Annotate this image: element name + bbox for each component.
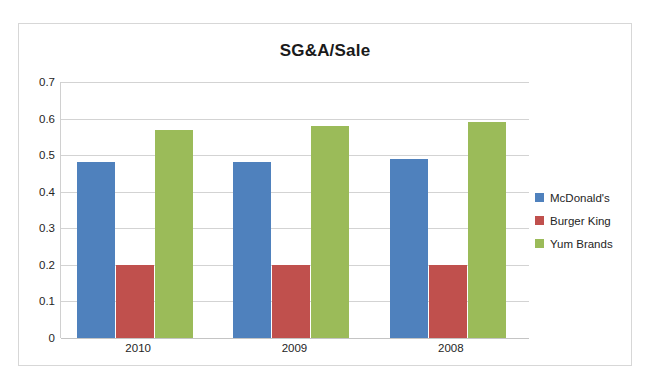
legend-label: Yum Brands bbox=[550, 238, 613, 250]
x-axis: 201020092008 bbox=[60, 342, 529, 362]
y-axis-tick-label: 0 bbox=[49, 332, 55, 344]
bar-group bbox=[217, 82, 373, 338]
x-axis-tick-label: 2008 bbox=[373, 342, 529, 354]
bar[interactable] bbox=[468, 122, 506, 338]
legend-item[interactable]: Yum Brands bbox=[535, 232, 629, 255]
chart-container: SG&A/Sale 0.70.60.50.40.30.20.10 2010200… bbox=[18, 23, 632, 366]
bar-group bbox=[374, 82, 530, 338]
legend-swatch-icon bbox=[535, 216, 544, 225]
bar[interactable] bbox=[233, 162, 271, 338]
y-axis-tick-label: 0.3 bbox=[39, 222, 55, 234]
bars-layer bbox=[61, 82, 529, 338]
gridline bbox=[61, 338, 529, 339]
legend-item[interactable]: McDonald's bbox=[535, 186, 629, 209]
y-axis-tick-label: 0.1 bbox=[39, 295, 55, 307]
bar[interactable] bbox=[311, 126, 349, 338]
legend-label: Burger King bbox=[550, 215, 611, 227]
x-axis-tick-label: 2009 bbox=[216, 342, 372, 354]
bar[interactable] bbox=[116, 265, 154, 338]
y-axis-tick-label: 0.5 bbox=[39, 149, 55, 161]
bar-group bbox=[61, 82, 217, 338]
y-axis-tick-label: 0.7 bbox=[39, 76, 55, 88]
legend-swatch-icon bbox=[535, 193, 544, 202]
bar[interactable] bbox=[390, 159, 428, 338]
y-axis-tick-label: 0.4 bbox=[39, 186, 55, 198]
bar[interactable] bbox=[272, 265, 310, 338]
bar[interactable] bbox=[155, 130, 193, 338]
legend-label: McDonald's bbox=[550, 192, 610, 204]
y-axis-tick-label: 0.6 bbox=[39, 113, 55, 125]
y-axis-tick-label: 0.2 bbox=[39, 259, 55, 271]
legend-swatch-icon bbox=[535, 239, 544, 248]
x-axis-tick-label: 2010 bbox=[60, 342, 216, 354]
y-axis: 0.70.60.50.40.30.20.10 bbox=[19, 82, 55, 338]
bar[interactable] bbox=[77, 162, 115, 338]
legend-item[interactable]: Burger King bbox=[535, 209, 629, 232]
bar[interactable] bbox=[429, 265, 467, 338]
plot-area bbox=[60, 82, 529, 338]
chart-legend: McDonald'sBurger KingYum Brands bbox=[535, 186, 629, 255]
chart-title: SG&A/Sale bbox=[19, 41, 631, 61]
